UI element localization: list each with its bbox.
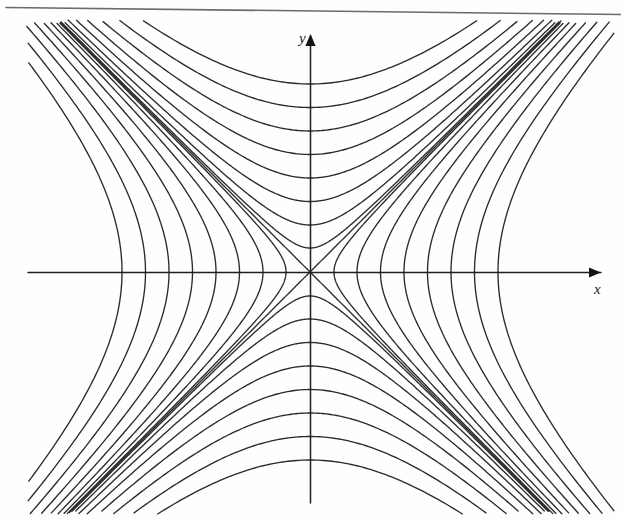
- hyperbola-curves: [27, 20, 614, 514]
- hyperbola-horizontal-c1: [57, 23, 263, 513]
- asymptote-negative-slope: [61, 23, 550, 512]
- figure-canvas: [0, 0, 621, 519]
- asymptote-positive-slope: [69, 21, 561, 513]
- hyperbola-horizontal-c1: [357, 23, 563, 513]
- hyperbola-horizontal-c5: [451, 22, 597, 513]
- hyperbola-figure: y x: [0, 0, 621, 519]
- axes-group: [28, 36, 601, 503]
- hyperbola-horizontal-c0: [334, 23, 560, 513]
- page-edge-line: [6, 8, 621, 15]
- y-axis-label: y: [299, 31, 306, 46]
- arrow-right-icon: [589, 267, 601, 277]
- hyperbola-horizontal-c0: [60, 23, 286, 513]
- arrow-up-icon: [305, 34, 315, 46]
- x-axis-label: x: [594, 282, 601, 297]
